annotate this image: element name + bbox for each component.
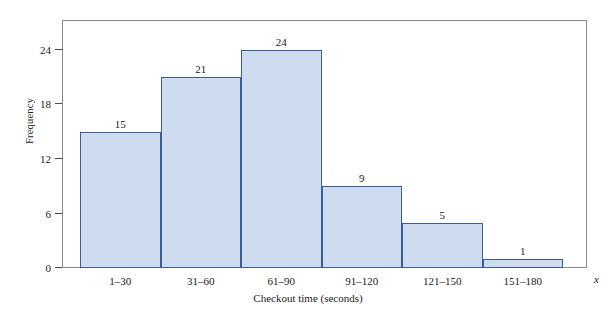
histogram-bar: 24 (241, 50, 322, 268)
y-axis-tick: 0 (55, 267, 62, 268)
y-axis-tick-label: 6 (46, 208, 52, 219)
bar-value-label: 9 (359, 173, 365, 184)
y-axis-tick: 12 (55, 158, 62, 159)
y-axis-tick: 6 (55, 213, 62, 214)
histogram-bar: 15 (80, 132, 161, 268)
histogram-bar: 21 (161, 77, 242, 268)
y-axis-tick-label: 0 (46, 263, 52, 274)
bar-value-label: 5 (440, 210, 446, 221)
bar-value-label: 21 (195, 64, 206, 75)
x-axis-title: Checkout time (seconds) (0, 293, 616, 304)
histogram-bar: 9 (322, 186, 403, 268)
x-axis-variable-symbol: x (594, 274, 599, 285)
histogram-bar: 5 (402, 223, 483, 268)
histogram-chart: Frequency 06121824 152124951 1–3031–6061… (0, 0, 616, 322)
bar-value-label: 1 (520, 246, 526, 257)
plot-area: 06121824 152124951 1–3031–6061–9091–1201… (62, 20, 587, 268)
y-axis-title: Frequency (24, 98, 35, 144)
x-axis-category-label: 151–180 (504, 276, 543, 287)
x-axis-category-label: 61–90 (268, 276, 296, 287)
x-axis-category-label: 91–120 (345, 276, 378, 287)
y-axis-tick: 24 (55, 49, 62, 50)
histogram-bar: 1 (483, 259, 564, 268)
bar-value-label: 15 (115, 119, 126, 130)
y-axis-tick-label: 24 (40, 44, 51, 55)
x-axis-category-label: 1–30 (109, 276, 131, 287)
x-axis-category-label: 121–150 (423, 276, 462, 287)
x-axis-category-label: 31–60 (187, 276, 215, 287)
y-axis-tick: 18 (55, 103, 62, 104)
bar-value-label: 24 (276, 37, 287, 48)
y-axis-tick-label: 18 (40, 99, 51, 110)
y-axis-tick-label: 12 (40, 154, 51, 165)
